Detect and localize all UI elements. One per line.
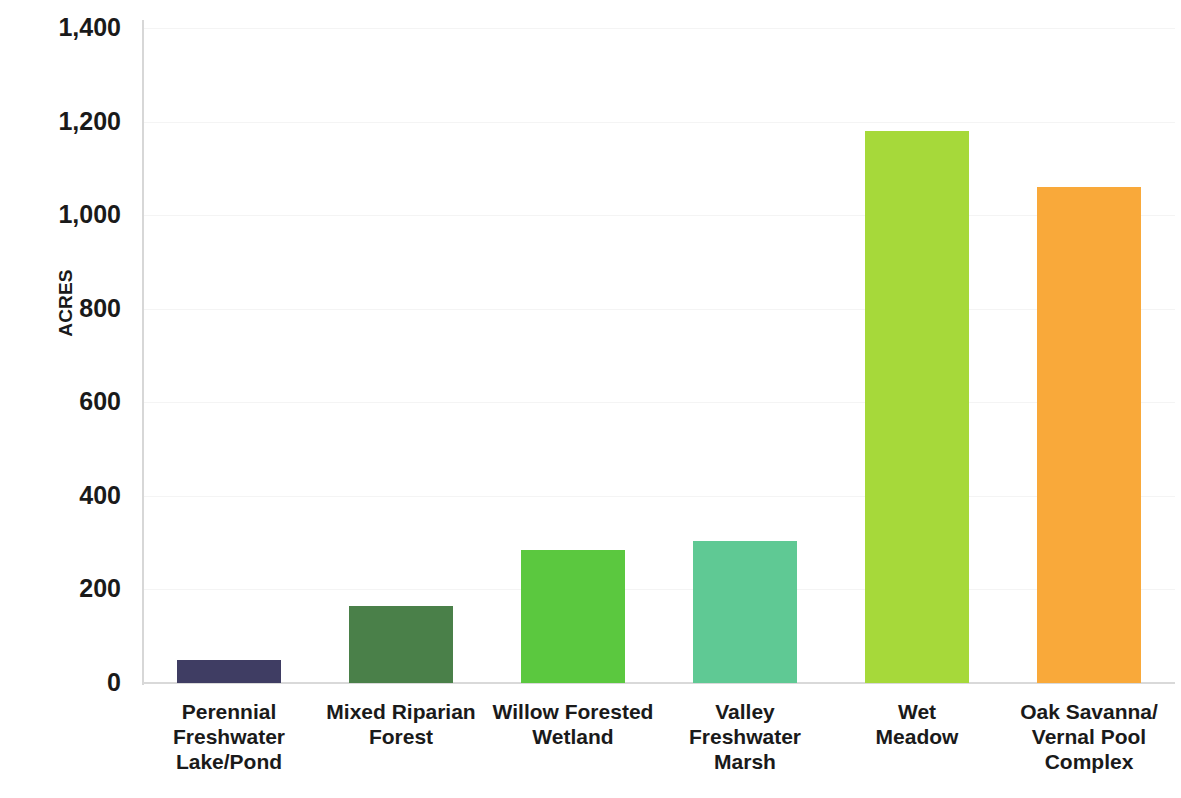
bar-slot (693, 0, 797, 683)
bar-slot (1037, 0, 1141, 683)
category-label-line: Complex (1003, 750, 1175, 775)
category-label-line: Mixed Riparian (315, 700, 487, 725)
bar-slot (177, 0, 281, 683)
category-label-line: Lake/Pond (143, 750, 315, 775)
bar-slot (521, 0, 625, 683)
bar[interactable] (521, 550, 625, 683)
category-label-line: Freshwater (659, 725, 831, 750)
category-label-line: Perennial (143, 700, 315, 725)
category-label-line: Forest (315, 725, 487, 750)
category-label-line: Oak Savanna/ (1003, 700, 1175, 725)
bar[interactable] (177, 660, 281, 683)
bar-slot (865, 0, 969, 683)
x-axis-category-label: PerennialFreshwaterLake/Pond (143, 700, 315, 774)
x-axis-category-label: WetMeadow (831, 700, 1003, 750)
bar[interactable] (349, 606, 453, 683)
x-axis-category-label: Mixed RiparianForest (315, 700, 487, 750)
category-label-line: Vernal Pool (1003, 725, 1175, 750)
category-label-line: Willow Forested (487, 700, 659, 725)
y-axis-tick-label: 0 (1, 670, 121, 695)
category-label-line: Wet (831, 700, 1003, 725)
y-axis-tick-label: 400 (1, 483, 121, 508)
x-axis-category-label: Willow ForestedWetland (487, 700, 659, 750)
y-axis-tick-label: 1,000 (1, 202, 121, 227)
bar-chart: ACRES 02004006008001,0001,2001,400 Peren… (0, 0, 1181, 798)
y-axis-tick-label: 800 (1, 296, 121, 321)
x-axis-category-label: Oak Savanna/Vernal PoolComplex (1003, 700, 1175, 774)
category-label-line: Freshwater (143, 725, 315, 750)
bar-slot (349, 0, 453, 683)
y-axis-tick-label: 600 (1, 389, 121, 414)
category-label-line: Wetland (487, 725, 659, 750)
x-axis-category-label: ValleyFreshwaterMarsh (659, 700, 831, 774)
bar[interactable] (693, 541, 797, 683)
x-axis-category-labels: PerennialFreshwaterLake/PondMixed Ripari… (143, 700, 1175, 798)
category-label-line: Marsh (659, 750, 831, 775)
y-axis-tick-label: 1,200 (1, 109, 121, 134)
category-label-line: Valley (659, 700, 831, 725)
bars-layer (143, 0, 1175, 683)
category-label-line: Meadow (831, 725, 1003, 750)
bar[interactable] (1037, 187, 1141, 683)
bar[interactable] (865, 131, 969, 683)
y-axis-tick-label: 200 (1, 576, 121, 601)
y-axis-tick-label: 1,400 (1, 15, 121, 40)
